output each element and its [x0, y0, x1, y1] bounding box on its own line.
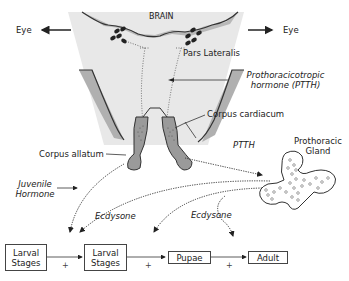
juvenile-hormone-line1: Juvenile — [12, 179, 58, 189]
juvenile-hormone-label: Juvenile Hormone — [12, 179, 58, 199]
prothoracic-gland-label-line1: Prothoracic — [293, 136, 343, 146]
stage-2-line2: Stages — [91, 258, 120, 268]
pars-lateralis-label: Pars Lateralis — [183, 48, 240, 58]
plus-sign-3: + — [226, 261, 233, 270]
stage-2-line1: Larval — [91, 248, 120, 258]
stage-box-adult: Adult — [248, 251, 288, 264]
eye-label-left: Eye — [16, 25, 32, 35]
ptth-label: Prothoracicotropic hormone (PTTH) — [238, 70, 333, 90]
ecdysone-label-2: Ecdysone — [191, 210, 232, 220]
ptth-label-line1: Prothoracicotropic — [238, 70, 333, 80]
stage-1-line2: Stages — [12, 258, 41, 268]
juvenile-hormone-line2: Hormone — [12, 189, 58, 199]
prothoracic-gland — [260, 151, 336, 209]
plus-sign-2: + — [145, 261, 152, 270]
stage-box-larval-2: Larval Stages — [84, 244, 127, 271]
stage-1-line1: Larval — [12, 248, 41, 258]
ecdysone-label-1: Ecdysone — [95, 211, 136, 221]
ptth-arrow-label: PTTH — [233, 140, 255, 150]
ptth-label-line2: hormone (PTTH) — [238, 80, 333, 90]
eye-label-right: Eye — [283, 25, 299, 35]
corpus-cardiacum-label: Corpus cardiacum — [207, 109, 284, 119]
corpus-allatum-label: Corpus allatum — [39, 149, 104, 159]
prothoracic-gland-label-line2: Gland — [293, 146, 343, 156]
plus-sign-1: + — [62, 261, 69, 270]
prothoracic-gland-label: Prothoracic Gland — [293, 136, 343, 156]
brain-label: BRAIN — [149, 12, 174, 22]
stage-box-pupae: Pupae — [168, 251, 211, 264]
stage-box-larval-1: Larval Stages — [5, 244, 47, 271]
